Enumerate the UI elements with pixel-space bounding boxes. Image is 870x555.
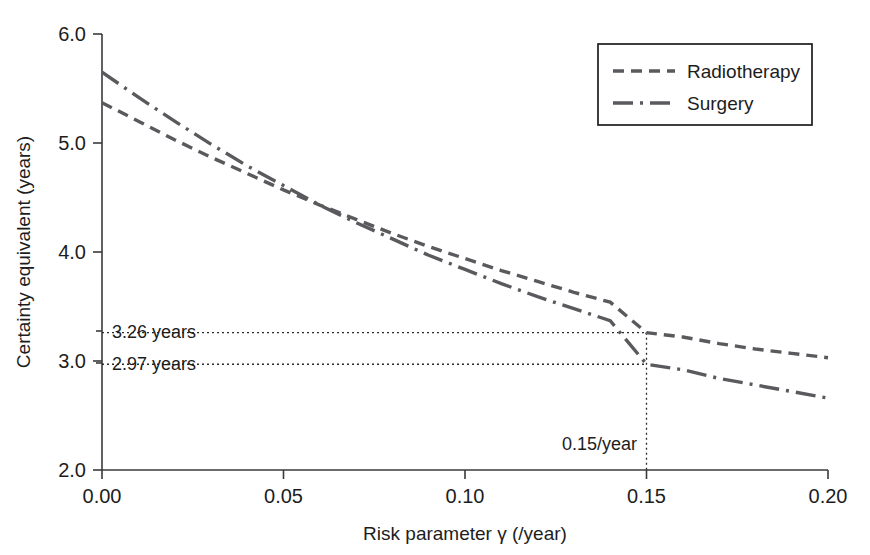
x-tick-label-020: 0.20 [809,485,848,507]
legend-label-radiotherapy: Radiotherapy [687,61,801,82]
x-tick-label-000: 0.00 [83,485,122,507]
chart-svg: 6.0 5.0 4.0 3.0 2.0 0.00 0.05 0.10 0.15 … [0,0,870,555]
annotation-gamma-value: 0.15/year [562,434,637,454]
y-tick-label-2: 2.0 [58,459,86,481]
chart-figure: 6.0 5.0 4.0 3.0 2.0 0.00 0.05 0.10 0.15 … [0,0,870,555]
annotation-radiotherapy-value: 3.26 years [112,322,196,342]
x-tick-label-015: 0.15 [627,485,666,507]
x-tick-label-010: 0.10 [446,485,485,507]
y-axis-title: Certainty equivalent (years) [13,136,34,368]
legend: Radiotherapy Surgery [598,44,812,125]
y-tick-label-3: 3.0 [58,350,86,372]
x-tick-label-005: 0.05 [264,485,303,507]
annotation-surgery-value: 2.97 years [112,354,196,374]
legend-label-surgery: Surgery [687,93,754,114]
y-tick-label-5: 5.0 [58,132,86,154]
x-axis-title: Risk parameter γ (/year) [363,523,567,544]
y-tick-label-4: 4.0 [58,241,86,263]
y-tick-label-6: 6.0 [58,23,86,45]
